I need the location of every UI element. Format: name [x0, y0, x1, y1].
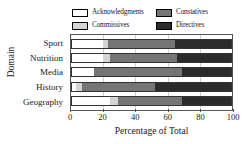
legend-swatch-commissives — [72, 22, 88, 30]
bar-segment — [71, 53, 103, 63]
x-tick-40: 40 — [131, 112, 140, 122]
stacked-bar-chart: Acknowledgments Constatives Commissives … — [0, 0, 246, 144]
y-tick-media: Media — [0, 67, 66, 77]
bar-segment — [94, 67, 183, 77]
bar-row — [71, 53, 232, 63]
y-tick-history: History — [0, 82, 66, 92]
legend-swatch-directives — [156, 22, 172, 30]
bar-segment — [182, 67, 232, 77]
legend-label-acknowledgments: Acknowledgments — [92, 9, 144, 16]
plot-area — [70, 34, 233, 111]
x-tick-60: 60 — [164, 112, 173, 122]
bar-segment — [82, 82, 154, 92]
legend-swatch-acknowledgments — [72, 9, 88, 17]
bar-segment — [71, 96, 110, 106]
bar-segment — [177, 53, 232, 63]
legend-swatch-constatives — [156, 9, 172, 17]
y-tick-sport: Sport — [0, 38, 66, 48]
x-axis-tick-labels: 020406080100 — [70, 112, 233, 124]
x-axis-title: Percentage of Total — [70, 126, 233, 136]
bar-segment — [71, 39, 103, 49]
chart-legend: Acknowledgments Constatives Commissives … — [72, 6, 240, 32]
legend-item-commissives: Commissives — [72, 22, 156, 30]
x-tick-0: 0 — [68, 112, 72, 122]
bar-segment — [110, 53, 178, 63]
bar-segment — [110, 96, 117, 106]
x-tick-80: 80 — [196, 112, 205, 122]
legend-label-commissives: Commissives — [92, 22, 129, 29]
bar-group — [71, 35, 232, 110]
bar-segment — [71, 67, 94, 77]
bar-row — [71, 67, 232, 77]
legend-item-acknowledgments: Acknowledgments — [72, 9, 156, 17]
bar-segment — [182, 96, 232, 106]
bar-row — [71, 96, 232, 106]
bar-row — [71, 82, 232, 92]
y-tick-geography: Geography — [0, 97, 66, 107]
bar-segment — [175, 39, 232, 49]
y-tick-nutrition: Nutrition — [0, 53, 66, 63]
bar-segment — [155, 82, 232, 92]
bar-segment — [108, 39, 175, 49]
bar-segment — [118, 96, 182, 106]
legend-label-constatives: Constatives — [176, 9, 208, 16]
legend-label-directives: Directives — [176, 22, 204, 29]
legend-item-directives: Directives — [156, 22, 240, 30]
y-axis-tick-labels: SportNutritionMediaHistoryGeography — [0, 34, 66, 111]
legend-item-constatives: Constatives — [156, 9, 240, 17]
x-tick-100: 100 — [227, 112, 240, 122]
bar-row — [71, 39, 232, 49]
x-tick-20: 20 — [98, 112, 107, 122]
